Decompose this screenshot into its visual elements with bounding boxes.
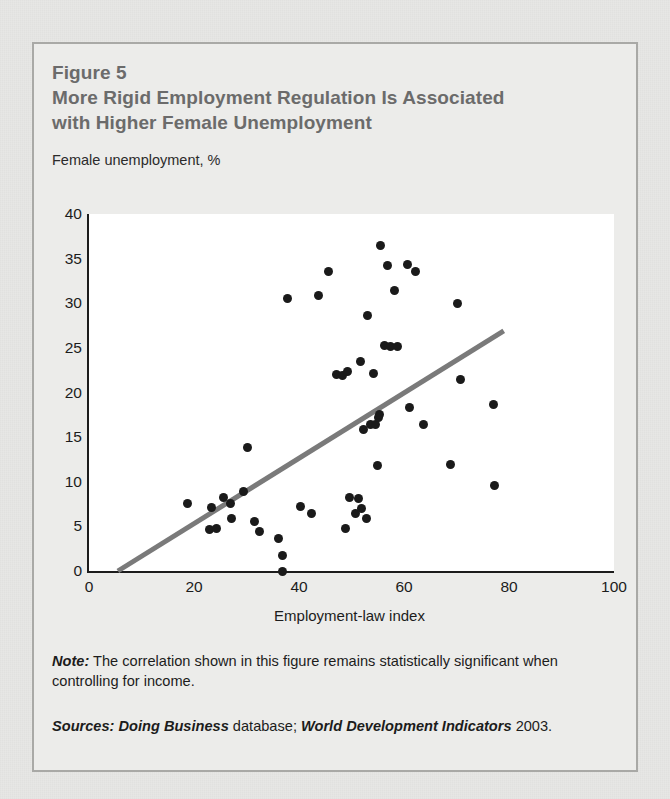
trendline [89, 214, 614, 571]
sources-prefix: Sources: [52, 718, 114, 734]
x-axis-tick-80: 80 [500, 578, 517, 596]
x-axis-tick-40: 40 [290, 578, 307, 596]
data-point [227, 514, 236, 523]
note-text: Note: The correlation shown in this figu… [52, 651, 618, 691]
y-axis-tick-35: 35 [65, 250, 82, 268]
plot-area: 0510152025303540020406080100 [87, 214, 614, 573]
data-point [324, 267, 333, 276]
data-point [375, 410, 384, 419]
data-point [307, 509, 316, 518]
data-point [369, 369, 378, 378]
y-axis-tick-5: 5 [73, 517, 82, 535]
data-point [278, 551, 287, 560]
figure-panel: Figure 5 More Rigid Employment Regulatio… [32, 42, 638, 772]
data-point [405, 403, 414, 412]
data-point [411, 267, 420, 276]
data-point [403, 260, 412, 269]
x-axis-tick-60: 60 [395, 578, 412, 596]
data-point [456, 375, 465, 384]
figure-notes: Note: The correlation shown in this figu… [52, 651, 618, 736]
data-point [393, 342, 402, 351]
data-point [376, 241, 385, 250]
data-point [239, 487, 248, 496]
data-point [354, 494, 363, 503]
data-point [489, 400, 498, 409]
data-point [373, 461, 382, 470]
data-point [453, 299, 462, 308]
note-prefix: Note: [52, 653, 89, 669]
data-point [250, 517, 259, 526]
data-point [296, 502, 305, 511]
data-point [390, 286, 399, 295]
data-point [383, 261, 392, 270]
data-point [314, 291, 323, 300]
note-body: The correlation shown in this figure rem… [52, 653, 558, 689]
y-axis-tick-25: 25 [65, 339, 82, 357]
data-point [278, 567, 287, 576]
x-axis-tick-20: 20 [185, 578, 202, 596]
sources-text: Sources: Doing Business database; World … [52, 716, 618, 736]
y-axis-tick-10: 10 [65, 473, 82, 491]
page-background: Figure 5 More Rigid Employment Regulatio… [0, 0, 670, 799]
sources-tail: 2003. [512, 718, 553, 734]
y-axis-tick-40: 40 [65, 205, 82, 223]
data-point [345, 493, 354, 502]
data-point [207, 503, 216, 512]
data-point [362, 514, 371, 523]
y-axis-tick-30: 30 [65, 294, 82, 312]
data-point [243, 443, 252, 452]
x-axis-tick-100: 100 [601, 578, 627, 596]
y-axis-tick-15: 15 [65, 428, 82, 446]
data-point [212, 524, 221, 533]
data-point [446, 460, 455, 469]
sources-italic-1: Doing Business [114, 718, 228, 734]
data-point [226, 499, 235, 508]
data-point [183, 499, 192, 508]
data-point [490, 481, 499, 490]
sources-mid: database; [229, 718, 301, 734]
data-point [283, 294, 292, 303]
y-axis-tick-20: 20 [65, 384, 82, 402]
data-point [363, 311, 372, 320]
data-point [274, 534, 283, 543]
x-axis-tick-0: 0 [85, 578, 94, 596]
data-point [357, 504, 366, 513]
data-point [341, 524, 350, 533]
y-axis-tick-0: 0 [73, 562, 82, 580]
data-point [356, 357, 365, 366]
sources-italic-2: World Development Indicators [301, 718, 512, 734]
x-axis-title: Employment-law index [87, 607, 612, 624]
data-point [343, 367, 352, 376]
data-point [419, 420, 428, 429]
data-point [255, 527, 264, 536]
